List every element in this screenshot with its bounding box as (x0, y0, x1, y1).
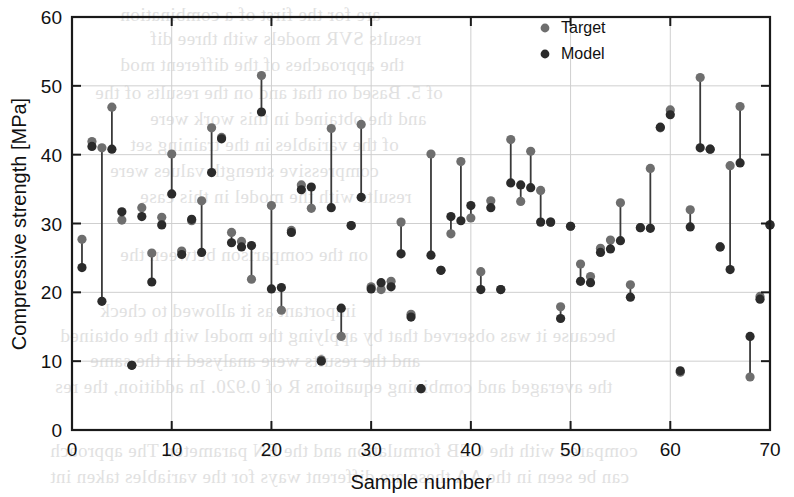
model-point (97, 297, 106, 306)
chart-legend: TargetModel (541, 19, 606, 62)
target-point (516, 197, 525, 206)
target-point (197, 196, 206, 205)
target-point (337, 332, 346, 341)
model-point (147, 277, 156, 286)
model-point (426, 251, 435, 260)
model-point (526, 183, 535, 192)
y-tick-label: 40 (41, 145, 62, 166)
model-point (177, 250, 186, 259)
target-point (207, 123, 216, 132)
target-point (426, 149, 435, 158)
model-point (107, 145, 116, 154)
y-tick-label: 10 (41, 351, 62, 372)
model-point (606, 244, 615, 253)
x-tick-label: 40 (460, 439, 481, 460)
target-point (626, 280, 635, 289)
model-point (347, 221, 356, 230)
model-point (117, 207, 126, 216)
target-point (247, 275, 256, 284)
target-point (77, 235, 86, 244)
model-point (656, 123, 665, 132)
model-point (406, 313, 415, 322)
model-point (556, 314, 565, 323)
model-point (327, 203, 336, 212)
x-tick-label: 50 (560, 439, 581, 460)
model-point (217, 134, 226, 143)
target-point (307, 204, 316, 213)
model-point (237, 242, 246, 251)
legend-marker-model (541, 50, 550, 59)
model-point (446, 212, 455, 221)
target-point (536, 186, 545, 195)
model-point (596, 248, 605, 257)
y-tick-label: 30 (41, 214, 62, 235)
y-tick-label: 60 (41, 7, 62, 28)
model-point (576, 277, 585, 286)
y-tick-label: 0 (51, 420, 62, 441)
model-point (187, 215, 196, 224)
x-tick-label: 70 (759, 439, 780, 460)
model-point (87, 142, 96, 151)
model-point (167, 189, 176, 198)
y-axis-title: Compressive strength [MPa] (8, 98, 30, 350)
target-point (137, 203, 146, 212)
model-point (197, 248, 206, 257)
model-point (745, 332, 754, 341)
model-point (536, 218, 545, 227)
target-point (117, 215, 126, 224)
model-point (307, 182, 316, 191)
target-point (696, 73, 705, 82)
model-point (636, 223, 645, 232)
target-point (167, 149, 176, 158)
target-point (277, 306, 286, 315)
model-point (506, 178, 515, 187)
model-point (367, 284, 376, 293)
target-point (267, 201, 276, 210)
target-point (556, 302, 565, 311)
target-point (147, 248, 156, 257)
model-point (546, 218, 555, 227)
x-tick-label: 0 (67, 439, 78, 460)
model-point (626, 293, 635, 302)
model-point (137, 212, 146, 221)
target-point (476, 267, 485, 276)
model-point (716, 242, 725, 251)
legend-marker-target (541, 24, 550, 33)
x-tick-label: 30 (361, 439, 382, 460)
target-point (396, 218, 405, 227)
target-point (257, 71, 266, 80)
model-point (496, 285, 505, 294)
target-point (745, 372, 754, 381)
target-point (97, 143, 106, 152)
model-point (287, 228, 296, 237)
model-point (127, 361, 136, 370)
model-point (297, 185, 306, 194)
model-point (267, 284, 276, 293)
x-tick-label: 20 (261, 439, 282, 460)
target-point (606, 235, 615, 244)
model-point (317, 357, 326, 366)
model-point (357, 193, 366, 202)
x-tick-label: 10 (161, 439, 182, 460)
model-point (516, 180, 525, 189)
model-point (486, 203, 495, 212)
model-point (277, 283, 286, 292)
scatter-chart: 0102030405060700102030405060 Sample numb… (0, 0, 794, 497)
model-point (686, 222, 695, 231)
y-tick-label: 20 (41, 282, 62, 303)
model-point (377, 278, 386, 287)
model-point (337, 304, 346, 313)
target-point (327, 124, 336, 133)
model-point (616, 236, 625, 245)
target-point (735, 102, 744, 111)
model-point (257, 107, 266, 116)
model-point (77, 263, 86, 272)
model-point (735, 158, 744, 167)
target-point (646, 164, 655, 173)
target-point (616, 198, 625, 207)
y-tick-label: 50 (41, 76, 62, 97)
target-point (456, 157, 465, 166)
x-tick-label: 60 (660, 439, 681, 460)
target-point (446, 229, 455, 238)
x-axis-title: Sample number (350, 471, 492, 493)
